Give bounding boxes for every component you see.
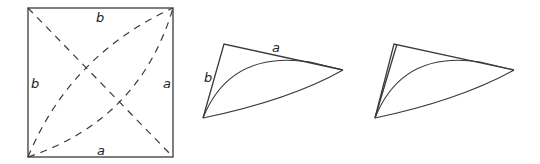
- diagram-canvas: b b a a a b: [0, 0, 540, 164]
- arc-lower: [375, 70, 514, 118]
- label-bottom: a: [97, 143, 105, 158]
- arc-upper: [375, 60, 514, 118]
- label-a: a: [272, 40, 280, 55]
- arc-lower: [203, 70, 343, 118]
- label-left: b: [31, 76, 39, 91]
- figure-square: b b a a: [28, 8, 173, 158]
- arc-upper: [203, 60, 343, 118]
- figure-folded-triangle: [375, 44, 514, 118]
- label-b: b: [204, 70, 212, 85]
- label-right: a: [163, 76, 171, 91]
- fold-edge: [375, 44, 397, 118]
- diagonal-dashed: [28, 8, 173, 157]
- label-top: b: [96, 10, 104, 25]
- figure-triangle: a b: [203, 40, 343, 118]
